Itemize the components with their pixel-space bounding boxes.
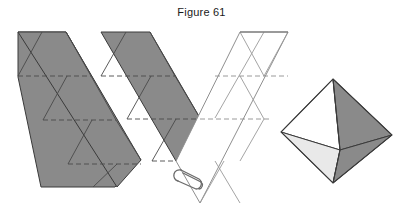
figure-illustration xyxy=(0,0,403,216)
figure-root: Figure 61 xyxy=(0,0,403,216)
octahedron-solid xyxy=(281,79,392,183)
